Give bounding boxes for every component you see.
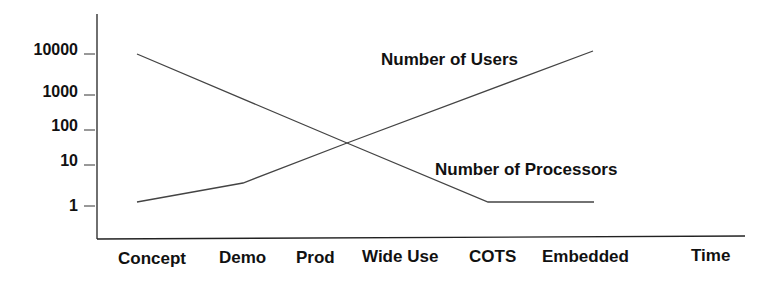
x-tick-concept: Concept	[118, 249, 186, 268]
x-tick-prod: Prod	[296, 248, 335, 267]
x-tick-wide-use: Wide Use	[362, 247, 438, 266]
processors-series-label: Number of Processors	[435, 160, 617, 179]
x-axis-label-time: Time	[691, 246, 730, 265]
x-tick-demo: Demo	[219, 248, 266, 267]
x-tick-cots: COTS	[469, 247, 516, 266]
y-tick-10: 10	[60, 152, 78, 169]
y-tick-marks	[84, 54, 95, 206]
chart: 10000 1000 100 10 1 Number of Users Numb…	[0, 0, 767, 284]
y-tick-1: 1	[69, 197, 78, 214]
y-tick-1000: 1000	[42, 83, 78, 100]
x-tick-embedded: Embedded	[542, 247, 629, 266]
y-tick-10000: 10000	[34, 41, 79, 58]
y-tick-100: 100	[51, 117, 78, 134]
users-line	[137, 51, 593, 202]
x-axis	[97, 236, 745, 239]
users-series-label: Number of Users	[381, 50, 518, 69]
